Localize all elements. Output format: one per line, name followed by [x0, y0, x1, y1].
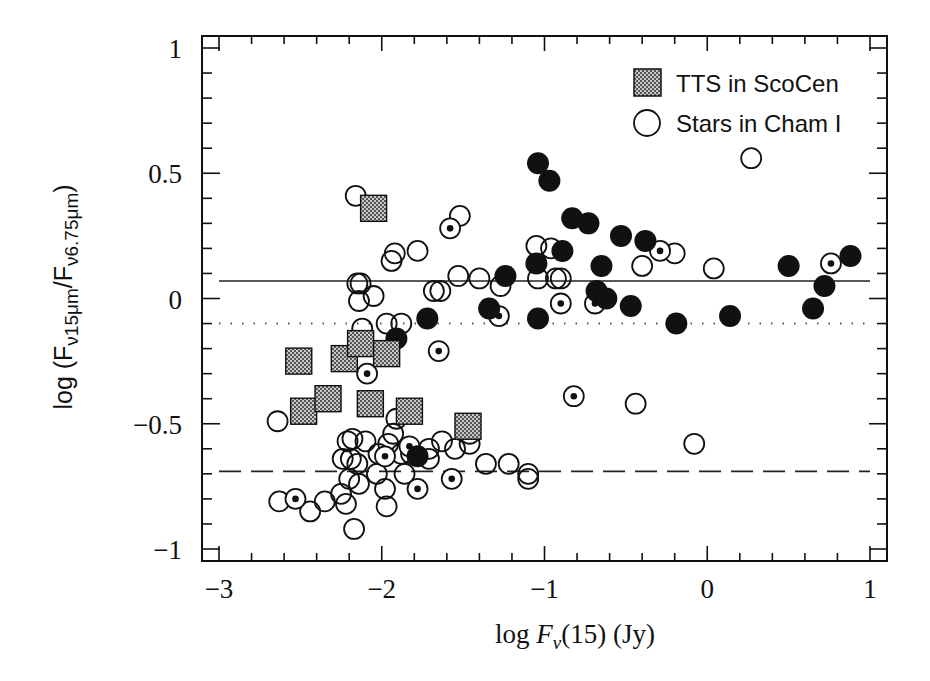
cham-point-filled	[407, 445, 429, 467]
x-tick-label: −3	[205, 574, 234, 604]
y-axis-title: log (Fν15μm/Fν6.75μm)	[49, 184, 82, 409]
cham-point-dot	[292, 496, 299, 503]
cham-point-filled	[595, 288, 617, 310]
tts-point	[286, 348, 312, 374]
cham-point-filled	[620, 295, 642, 317]
cham-point-open	[684, 434, 704, 454]
cham-point-dot	[447, 225, 454, 232]
cham-point-filled	[839, 245, 861, 267]
x-tick-label: 1	[863, 574, 877, 604]
tts-point	[315, 386, 341, 412]
cham-point-filled	[665, 313, 687, 335]
legend-label-tts: TTS in ScoCen	[676, 70, 839, 97]
cham-point-open	[448, 266, 468, 286]
cham-point-open	[355, 431, 375, 451]
cham-point-open	[382, 251, 402, 271]
legend-marker-cham	[634, 110, 660, 136]
cham-point-filled	[538, 170, 560, 192]
y-tick-label: −0.5	[133, 410, 182, 440]
cham-point-dot	[382, 453, 389, 460]
cham-point-filled	[634, 230, 656, 252]
tts-point	[396, 398, 422, 424]
cham-point-open	[704, 258, 724, 278]
cham-point-filled	[590, 255, 612, 277]
cham-point-filled	[551, 240, 573, 262]
cham-point-open	[632, 256, 652, 276]
tts-point	[357, 391, 383, 417]
legend: TTS in ScoCen Stars in Cham I	[634, 69, 841, 137]
cham-point-filled	[610, 225, 632, 247]
cham-point-filled	[478, 298, 500, 320]
cham-point-open	[626, 394, 646, 414]
cham-point-dot	[448, 476, 455, 483]
tts-point	[374, 341, 400, 367]
y-tick-label: −1	[153, 535, 182, 565]
cham-point-filled	[813, 275, 835, 297]
x-axis-title: log Fν(15) (Jy)	[495, 619, 655, 653]
data-points	[268, 148, 862, 539]
y-tick-label: 0.5	[148, 159, 182, 189]
cham-point-filled	[527, 308, 549, 330]
cham-point-filled	[525, 252, 547, 274]
cham-point-filled	[802, 298, 824, 320]
cham-point-open	[408, 241, 428, 261]
cham-point-dot	[435, 348, 442, 355]
cham-point-open	[551, 268, 571, 288]
cham-point-open	[344, 519, 364, 539]
x-tick-label: −2	[367, 574, 396, 604]
cham-point-dot	[828, 260, 835, 267]
tts-point	[291, 398, 317, 424]
reference-lines	[219, 281, 870, 471]
tts-point	[455, 413, 481, 439]
cham-point-dot	[657, 248, 664, 255]
tts-point	[361, 195, 387, 221]
cham-point-dot	[557, 300, 564, 307]
legend-label-cham: Stars in Cham I	[676, 110, 841, 137]
cham-point-filled	[577, 212, 599, 234]
cham-point-dot	[364, 370, 371, 377]
y-tick-label: 1	[169, 34, 183, 64]
tts-point	[348, 331, 374, 357]
cham-point-dot	[570, 393, 577, 400]
cham-point-open	[268, 411, 288, 431]
legend-marker-tts	[634, 69, 661, 96]
cham-point-filled	[494, 265, 516, 287]
scatter-chart: −3−2−10110.50−0.5−1 log Fν(15) (Jy) log …	[0, 0, 930, 681]
cham-point-open	[469, 268, 489, 288]
cham-point-filled	[416, 308, 438, 330]
cham-point-filled	[778, 255, 800, 277]
x-tick-label: 0	[701, 574, 715, 604]
x-tick-label: −1	[530, 574, 559, 604]
cham-point-dot	[414, 486, 421, 493]
cham-point-open	[741, 148, 761, 168]
cham-point-filled	[719, 305, 741, 327]
cham-point-open	[518, 464, 538, 484]
cham-point-open	[546, 268, 566, 288]
y-tick-label: 0	[169, 285, 183, 315]
